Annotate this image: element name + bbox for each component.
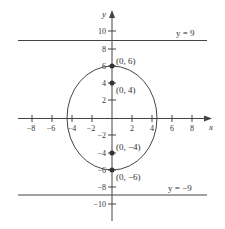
ellipse-diagram: −8 −6 −4 −2 2 4 6 8 x −10 −8 −6 −4 −2 2: [0, 0, 225, 229]
point-label: (0, −6): [116, 172, 141, 182]
focus-point-bottom: [110, 151, 115, 156]
x-tick-label: −2: [87, 124, 96, 133]
y-axis-label: y: [101, 9, 106, 19]
y-tick-label: −8: [97, 183, 106, 192]
x-tick-label: −8: [27, 124, 36, 133]
y-tick-label: 4: [102, 79, 106, 88]
vertex-point-bottom: [110, 168, 115, 173]
x-tick-label: 2: [130, 124, 134, 133]
directrix-label-bottom: y = −9: [168, 183, 192, 193]
point-label: (0, −4): [116, 142, 141, 152]
y-tick-label: 8: [102, 45, 106, 54]
focus-point-top: [110, 81, 115, 86]
x-tick-label: −6: [47, 124, 56, 133]
x-axis-arrow-icon: [204, 116, 212, 122]
point-label: (0, 6): [116, 56, 136, 66]
x-tick-label: 6: [170, 124, 174, 133]
y-axis-arrow-icon: [109, 10, 115, 18]
y-tick-label: 2: [102, 96, 106, 105]
x-tick-label: −4: [68, 124, 77, 133]
y-tick-label: −10: [93, 200, 106, 209]
y-tick-label: 10: [98, 27, 106, 36]
y-tick-label: −2: [97, 131, 106, 140]
vertex-point-top: [110, 64, 115, 69]
x-tick-label: 8: [190, 124, 194, 133]
directrix-label-top: y = 9: [176, 28, 195, 38]
point-label: (0, 4): [116, 85, 136, 95]
y-tick-label: −4: [97, 149, 106, 158]
x-tick-label: 4: [150, 124, 154, 133]
x-axis: −8 −6 −4 −2 2 4 6 8 x: [18, 115, 213, 133]
x-axis-label: x: [208, 122, 213, 132]
